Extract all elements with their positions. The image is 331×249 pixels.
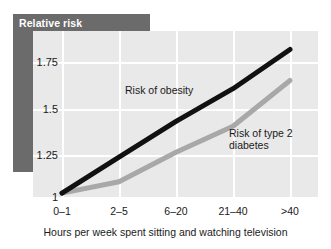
y-tick-label-15: 1.5 xyxy=(0,103,58,115)
y-tick-label-125: 1.25 xyxy=(0,149,58,161)
annotation-risk-of-type-2-diabetes: Risk of type 2 diabetes xyxy=(229,127,293,151)
x-tick-label-gt40: >40 xyxy=(281,205,299,217)
x-tick-label-2-5: 2–5 xyxy=(110,205,128,217)
x-tick-label-6-20: 6–20 xyxy=(164,205,187,217)
x-tick-label-21-40: 21–40 xyxy=(218,205,247,217)
annotation-risk-of-obesity: Risk of obesity xyxy=(125,84,193,96)
chart-title: Relative risk xyxy=(19,17,82,29)
x-tick-label-0-1: 0–1 xyxy=(53,205,71,217)
y-tick-label-1: 1 xyxy=(0,191,58,203)
series-lines xyxy=(33,31,318,199)
y-tick-label-175: 1.75 xyxy=(0,56,58,68)
line-risk-of-obesity xyxy=(62,50,290,194)
plot-inner: Risk of obesity Risk of type 2 diabetes xyxy=(33,31,318,199)
x-axis-caption: Hours per week spent sitting and watchin… xyxy=(0,226,331,238)
chart-figure: Relative risk Risk of obesity Risk of ty… xyxy=(0,0,331,249)
plot-area: Risk of obesity Risk of type 2 diabetes xyxy=(33,31,318,199)
